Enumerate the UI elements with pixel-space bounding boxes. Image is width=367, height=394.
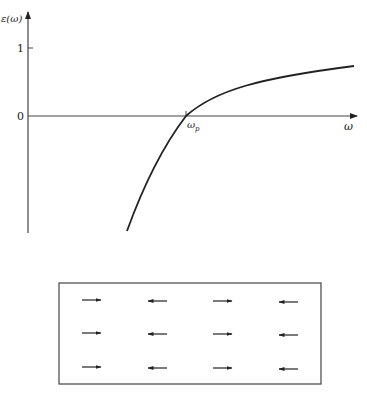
x-axis-label: ω [344,120,353,133]
figure: ε(ω) 1 0 ω ω p [0,0,367,394]
dipole-arrows [82,300,298,369]
omega-p-subscript: p [195,125,200,133]
y-tick-label-1: 1 [17,42,24,55]
epsilon-curve [127,66,354,231]
omega-p-label: ω [187,119,195,130]
y-axis-label: ε(ω) [1,13,22,24]
y-tick-label-0: 0 [17,110,24,123]
